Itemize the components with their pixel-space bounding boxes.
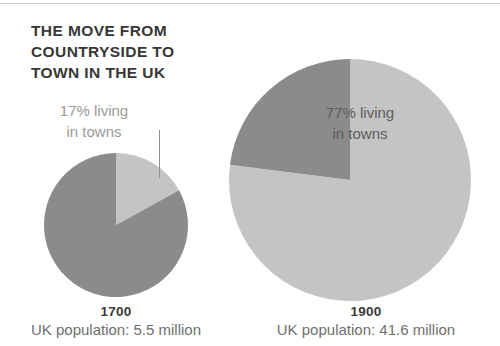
population-label-1900: UK population: 41.6 million [248, 320, 484, 340]
callout-1700-urban: 17% living in towns [30, 100, 158, 142]
year-label-1900: 1900 [248, 303, 484, 320]
caption-1700: 1700 UK population: 5.5 million [16, 303, 216, 340]
caption-1900: 1900 UK population: 41.6 million [248, 303, 484, 340]
year-label-1700: 1700 [16, 303, 216, 320]
infographic-root: The move from countryside to town in the… [0, 0, 500, 346]
population-label-1700: UK population: 5.5 million [16, 320, 216, 340]
pie-1900 [229, 59, 471, 301]
callout-1900-urban: 77% living in towns [285, 102, 435, 144]
leader-line-1700 [159, 130, 160, 178]
pie-chart-canvas [0, 0, 500, 346]
pie-1700 [44, 153, 188, 297]
